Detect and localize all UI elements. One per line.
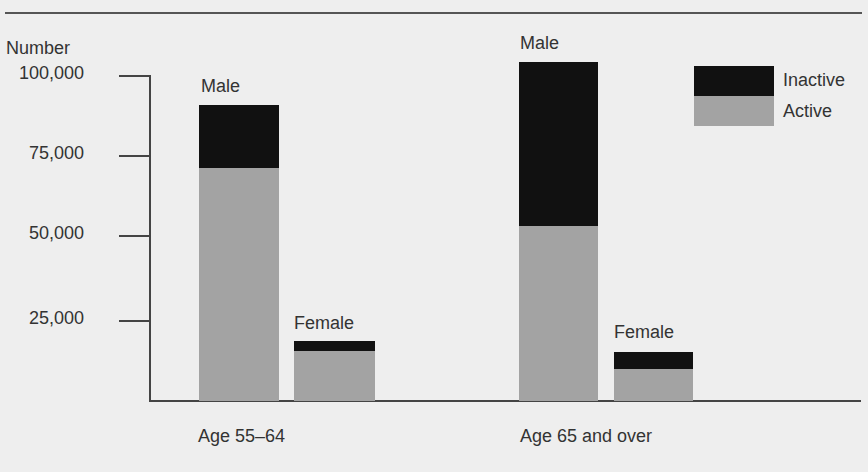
- legend-label-active: Active: [783, 101, 832, 122]
- bar-age55-64-male: [199, 105, 279, 401]
- bar-age65plus-male: [519, 62, 598, 401]
- y-tick-label-100000: 100,000: [0, 63, 84, 84]
- bar-segment-inactive: [294, 341, 375, 351]
- legend-swatch-active: [694, 96, 774, 126]
- bar-segment-inactive: [614, 352, 693, 369]
- bar-segment-inactive: [199, 105, 279, 168]
- top-rule: [5, 12, 862, 14]
- group-label-age65plus: Age 65 and over: [520, 426, 652, 447]
- y-tick-label-25000: 25,000: [0, 308, 84, 329]
- bar-segment-active: [519, 226, 598, 401]
- y-axis-title: Number: [6, 38, 70, 59]
- bar-age65plus-female: [614, 352, 693, 401]
- bar-segment-active: [614, 369, 693, 401]
- y-tick-25000: [119, 320, 150, 322]
- legend-label-inactive: Inactive: [783, 70, 845, 91]
- legend-swatch-inactive: [694, 66, 774, 96]
- y-tick-label-50000: 50,000: [0, 223, 84, 244]
- bar-segment-inactive: [519, 62, 598, 226]
- bar-label-male: Male: [520, 33, 559, 54]
- bar-segment-active: [294, 351, 375, 401]
- bar-label-male: Male: [201, 76, 240, 97]
- bar-age55-64-female: [294, 341, 375, 401]
- bar-label-female: Female: [614, 322, 674, 343]
- y-tick-50000: [119, 235, 150, 237]
- group-label-age55-64: Age 55–64: [198, 426, 285, 447]
- y-tick-75000: [119, 155, 150, 157]
- y-tick-100000: [119, 75, 150, 77]
- y-tick-label-75000: 75,000: [0, 143, 84, 164]
- bar-label-female: Female: [294, 313, 354, 334]
- bar-segment-active: [199, 168, 279, 401]
- y-axis: [149, 75, 151, 402]
